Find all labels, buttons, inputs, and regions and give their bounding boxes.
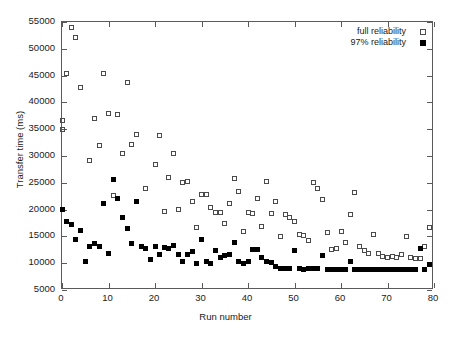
x-axis-tick: [434, 283, 435, 288]
data-point: [371, 232, 376, 237]
data-point: [418, 256, 423, 261]
data-point: [232, 240, 237, 245]
data-point: [399, 252, 404, 257]
y-axis-tick-label: 40000: [29, 96, 55, 106]
data-point: [92, 241, 97, 246]
data-point: [329, 247, 334, 252]
y-axis-tick: [427, 49, 432, 50]
x-axis-tick-label: 0: [58, 293, 63, 303]
data-point: [366, 267, 371, 272]
data-point: [408, 267, 413, 272]
data-point: [78, 85, 83, 90]
plot-area: full reliability 97% reliability: [61, 21, 433, 289]
data-point: [362, 267, 367, 272]
data-point: [315, 186, 320, 191]
data-point: [385, 255, 390, 260]
data-point: [111, 193, 116, 198]
y-axis-tick: [62, 102, 67, 103]
x-axis-tick: [155, 22, 156, 27]
y-axis-tick: [427, 22, 432, 23]
data-point: [222, 221, 227, 226]
y-axis-tick: [427, 102, 432, 103]
data-point: [250, 247, 255, 252]
filled-square-icon: [420, 40, 426, 46]
x-axis-tick: [109, 22, 110, 27]
data-point: [339, 267, 344, 272]
data-point: [180, 180, 185, 185]
data-point: [390, 267, 395, 272]
y-axis-tick-label: 20000: [29, 204, 55, 214]
data-point: [325, 230, 330, 235]
data-point: [264, 179, 269, 184]
data-point: [366, 251, 371, 256]
data-point: [208, 261, 213, 266]
x-axis-tick: [248, 283, 249, 288]
data-point: [129, 241, 134, 246]
data-point: [185, 179, 190, 184]
data-point: [153, 162, 158, 167]
y-axis-tick: [62, 129, 67, 130]
data-point: [115, 196, 120, 201]
data-point: [143, 186, 148, 191]
y-axis-tick: [427, 156, 432, 157]
x-axis-tick-labels: 01020304050607080: [0, 293, 451, 307]
data-point: [101, 201, 106, 206]
y-axis-tick-label: 30000: [29, 150, 55, 160]
data-point: [427, 225, 432, 230]
data-point: [166, 246, 171, 251]
data-point: [166, 175, 171, 180]
data-point: [306, 238, 311, 243]
data-point: [413, 256, 418, 261]
data-point: [111, 177, 116, 182]
data-point: [246, 210, 251, 215]
y-axis-tick: [427, 129, 432, 130]
data-point: [306, 266, 311, 271]
x-axis-tick: [434, 22, 435, 27]
data-point: [92, 116, 97, 121]
y-axis-title: Transfer time (ms): [14, 70, 25, 230]
legend-label-97-reliability: 97% reliability: [350, 37, 406, 48]
data-point: [255, 196, 260, 201]
y-axis-tick: [62, 236, 67, 237]
data-point: [283, 266, 288, 271]
data-point: [73, 35, 78, 40]
x-axis-tick: [62, 283, 63, 288]
data-point: [190, 249, 195, 254]
data-point: [385, 267, 390, 272]
y-axis-tick: [427, 183, 432, 184]
x-axis-tick: [109, 283, 110, 288]
data-point: [194, 225, 199, 230]
data-point: [311, 180, 316, 185]
data-point: [352, 190, 357, 195]
data-point: [134, 199, 139, 204]
y-axis-tick: [62, 263, 67, 264]
data-point: [120, 215, 125, 220]
chart-legend: full reliability 97% reliability: [350, 26, 426, 48]
data-point: [162, 245, 167, 250]
data-point: [106, 251, 111, 256]
data-point: [273, 199, 278, 204]
data-point: [404, 234, 409, 239]
data-point: [143, 246, 148, 251]
data-point: [339, 229, 344, 234]
data-point: [325, 267, 330, 272]
data-point: [157, 133, 162, 138]
data-point: [311, 266, 316, 271]
data-point: [194, 261, 199, 266]
data-point: [408, 255, 413, 260]
data-point: [371, 267, 376, 272]
data-points-layer: [62, 22, 432, 288]
x-axis-tick: [388, 283, 389, 288]
data-point: [301, 233, 306, 238]
data-point: [180, 259, 185, 264]
data-point: [246, 259, 251, 264]
data-point: [190, 199, 195, 204]
data-point: [343, 240, 348, 245]
data-point: [422, 244, 427, 249]
data-point: [269, 260, 274, 265]
x-axis-title: Run number: [0, 311, 451, 322]
data-point: [222, 253, 227, 258]
data-point: [404, 267, 409, 272]
y-axis-tick: [427, 236, 432, 237]
data-point: [320, 197, 325, 202]
